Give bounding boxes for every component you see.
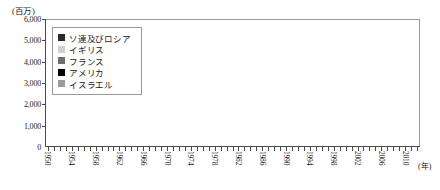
legend-label: イギリス [69, 43, 104, 55]
y-tick-mark [42, 104, 45, 105]
legend-label: イスラエル [69, 78, 113, 90]
legend-swatch [58, 80, 65, 87]
y-tick-mark [42, 83, 45, 84]
x-tick-labels: 1950195419581962196619701974197819821986… [45, 151, 420, 189]
bar-slot [414, 19, 420, 147]
y-tick-mark [42, 19, 45, 20]
legend-item: フランス [58, 55, 131, 67]
y-tick-mark [42, 62, 45, 63]
legend-swatch [58, 34, 65, 41]
y-tick-mark [42, 40, 45, 41]
legend-item: アメリカ [58, 67, 131, 79]
legend-label: ソ連及びロシア [69, 32, 131, 44]
y-tick-mark [42, 126, 45, 127]
legend-label: フランス [69, 55, 104, 67]
legend-swatch [58, 46, 65, 53]
legend-label: アメリカ [69, 66, 104, 78]
legend-swatch [58, 69, 65, 76]
chart-root: (百万) 01,0002,0003,0004,0005,0006,000 195… [0, 0, 440, 190]
chart-legend: ソ連及びロシアイギリスフランスアメリカイスラエル [52, 27, 142, 95]
legend-item: イスラエル [58, 78, 131, 90]
legend-swatch [58, 57, 65, 64]
legend-item: ソ連及びロシア [58, 32, 131, 44]
x-axis-unit-label: (年) [418, 160, 431, 171]
legend-item: イギリス [58, 44, 131, 56]
